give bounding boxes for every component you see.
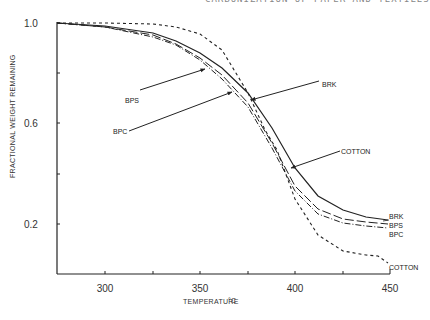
y-tick-label: 0.2: [24, 219, 38, 230]
series-bps-line: [57, 23, 388, 224]
bps-end-label: BPS: [389, 222, 403, 229]
brk-label: BRK: [322, 81, 337, 88]
bpc-end-label: BPC: [389, 231, 403, 238]
bps-leader-arrow: [140, 69, 205, 90]
cotton-leader-arrow: [291, 151, 340, 168]
x-axis-unit: °C: [228, 297, 236, 304]
brk-end-label: BRK: [389, 213, 404, 220]
x-tick-label: 450: [382, 283, 399, 294]
y-tick-label: 1.0: [24, 18, 38, 29]
y-tick-label: 0.6: [24, 118, 38, 129]
y-axis-title: FRACTIONAL WEIGHT REMAINING: [9, 54, 16, 178]
x-tick-label: 350: [192, 283, 209, 294]
series-brk-line: [57, 23, 388, 220]
bpc-label: BPC: [113, 128, 127, 135]
series-bpc-line: [57, 23, 388, 228]
cotton-end-label: COTTON: [389, 264, 418, 271]
bps-label: BPS: [125, 97, 139, 104]
cotton-label: COTTON: [341, 148, 370, 155]
x-tick-label: 300: [97, 283, 114, 294]
series-cotton-line: [57, 23, 388, 263]
x-tick-label: 400: [287, 283, 304, 294]
brk-leader-arrow: [251, 81, 319, 100]
bpc-leader-arrow: [129, 92, 232, 131]
